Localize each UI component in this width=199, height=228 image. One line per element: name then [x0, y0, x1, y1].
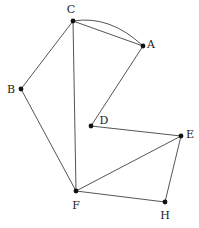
graph-edge-b-f	[21, 89, 76, 191]
graph-figure: ABCDEFH	[0, 0, 199, 228]
graph-vertex-d	[89, 124, 94, 129]
graph-vertex-label-e: E	[186, 129, 194, 140]
graph-vertex-label-d: D	[100, 115, 109, 126]
graph-edge-c-a	[73, 21, 143, 46]
edge-layer	[21, 20, 181, 202]
graph-vertex-label-h: H	[160, 210, 170, 221]
graph-edge-d-e	[91, 126, 181, 136]
graph-vertex-label-a: A	[147, 39, 155, 50]
graph-edge-c-b	[21, 21, 73, 89]
graph-edge-c-f	[73, 21, 76, 191]
graph-vertex-c	[71, 19, 76, 24]
graph-vertex-a	[141, 44, 146, 49]
graph-vertex-b	[19, 87, 24, 92]
graph-vertex-label-f: F	[72, 200, 80, 211]
graph-edge-f-h	[76, 191, 165, 202]
graph-vertex-f	[74, 189, 79, 194]
graph-vertex-label-c: C	[67, 4, 75, 15]
graph-vertex-h	[163, 200, 168, 205]
graph-edge-e-f	[76, 136, 181, 191]
graph-vertex-e	[179, 134, 184, 139]
graph-edge-e-h	[165, 136, 181, 202]
graph-vertex-label-b: B	[7, 84, 15, 95]
